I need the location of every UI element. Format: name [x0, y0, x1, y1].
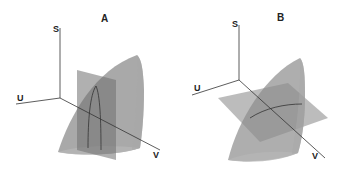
panel-b: B S U V: [170, 0, 341, 173]
panel-a-plot: [0, 0, 170, 173]
u-axis-label: U: [17, 94, 24, 103]
panel-a: A S U V: [0, 0, 170, 173]
panel-a-title: A: [101, 14, 108, 24]
v-axis-label: V: [153, 151, 159, 160]
s-axis-label: S: [53, 25, 59, 34]
s-axis-label: S: [232, 20, 238, 29]
panel-b-title: B: [277, 13, 284, 23]
u-axis-label: U: [194, 84, 201, 93]
v-axis-label: V: [312, 152, 318, 161]
vertical-plane: [77, 70, 116, 160]
